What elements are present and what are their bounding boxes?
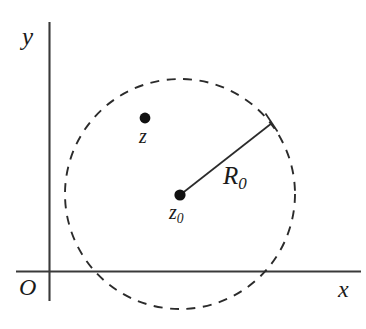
- diagram-svg: [0, 0, 366, 329]
- point-z-label-base: z: [139, 125, 147, 147]
- point-z0-marker: [174, 189, 185, 200]
- point-z-marker: [140, 113, 151, 124]
- point-z0-label-base: z: [169, 201, 177, 223]
- y-axis-label: y: [22, 24, 33, 49]
- figure-canvas: y x O z z0 R0: [0, 0, 366, 329]
- point-z0-label-subscript: 0: [177, 211, 184, 226]
- point-z0-label: z0: [169, 202, 184, 225]
- x-axis-label: x: [338, 277, 349, 301]
- origin-label: O: [19, 275, 36, 299]
- radius-end-tick: [266, 114, 278, 132]
- radius-label-base: R: [223, 162, 238, 189]
- radius-label-subscript: 0: [238, 174, 247, 193]
- point-z-label: z: [139, 126, 147, 146]
- radius-label: R0: [223, 163, 247, 192]
